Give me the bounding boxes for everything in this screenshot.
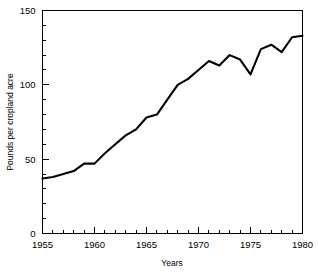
x-axis-title: Years [161, 258, 182, 268]
y-axis-title: Pounds per cropland acre [5, 73, 15, 171]
y-tick-label: 100 [20, 79, 36, 90]
x-tick-label: 1955 [32, 239, 53, 250]
y-tick-label: 50 [25, 154, 36, 165]
x-tick-label: 1965 [136, 239, 157, 250]
x-tick-label: 1980 [292, 239, 313, 250]
y-tick-label: 0 [30, 228, 35, 239]
plot-frame [43, 11, 303, 234]
line-chart: 050100150 195519601965197019751980 Years… [0, 0, 318, 272]
data-series-line [43, 36, 303, 179]
x-axis-tick-labels: 195519601965197019751980 [32, 239, 313, 250]
x-tick-label: 1970 [188, 239, 209, 250]
x-tick-label: 1975 [240, 239, 261, 250]
x-axis-ticks [43, 227, 303, 234]
y-axis-ticks [43, 11, 49, 234]
y-tick-label: 150 [20, 5, 36, 16]
x-tick-label: 1960 [84, 239, 105, 250]
chart-figure: 050100150 195519601965197019751980 Years… [0, 0, 318, 272]
y-axis-tick-labels: 050100150 [20, 5, 36, 239]
